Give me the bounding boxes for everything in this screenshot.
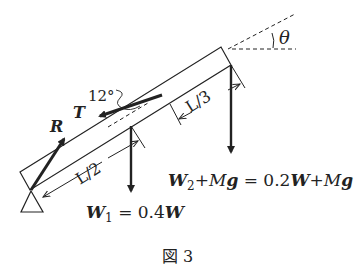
figure-caption: 図 3 <box>162 247 193 266</box>
w2-mass: M <box>208 170 227 190</box>
w1-total-weight: W <box>165 202 186 222</box>
w2-plus-2: + <box>309 170 323 190</box>
w2-equation: W2+Mg = 0.2W+Mg <box>168 170 353 193</box>
w2-total-weight: W <box>290 170 311 190</box>
beam-force-diagram: θ R T 12° L/2 L/3 W2+Mg = 0.2W+Mg W1 = 0… <box>0 0 363 278</box>
third-length-label: L/3 <box>182 86 214 116</box>
pivot-support-icon <box>21 191 43 212</box>
reaction-label: R <box>49 117 63 136</box>
w1-equation: W1 = 0.4W <box>86 202 186 225</box>
theta-label: θ <box>279 27 290 48</box>
theta-arc-icon <box>272 33 274 48</box>
half-length-label: L/2 <box>72 158 104 188</box>
w2-symbol: W <box>168 170 189 190</box>
w2-gravity: g <box>226 170 238 190</box>
w1-subscript: 1 <box>105 211 113 225</box>
w1-symbol: W <box>86 202 107 222</box>
w2-plus: + <box>195 170 209 190</box>
w2-mass-2: M <box>323 170 342 190</box>
angle-12-label: 12° <box>88 87 115 105</box>
w2-equals: = 0.2 <box>238 170 290 190</box>
w2-subscript: 2 <box>187 179 195 193</box>
w2-gravity-2: g <box>341 170 353 190</box>
tension-label: T <box>73 103 86 122</box>
w1-equals: = 0.4 <box>113 202 165 222</box>
reaction-force-arrow <box>31 139 64 190</box>
